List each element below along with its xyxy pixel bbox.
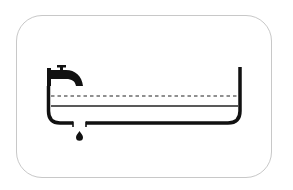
tank-diagram (0, 0, 293, 190)
drain-opening-icon (73, 122, 86, 128)
faucet-icon (47, 65, 83, 86)
water-drop-icon (76, 131, 83, 141)
